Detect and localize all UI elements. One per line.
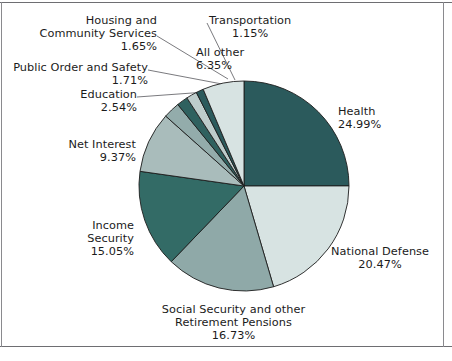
slice-label-national-defense: National Defense 20.47% — [331, 245, 429, 271]
slice-label-transportation-percent: 1.15% — [209, 27, 291, 40]
slice-label-all-other-percent: 6.35% — [196, 59, 244, 72]
slice-label-income-security-name-1: Income — [28, 219, 134, 232]
slice-label-national-defense-name: National Defense — [331, 245, 429, 258]
slice-label-social-security-percent: 16.73% — [141, 329, 326, 342]
slice-label-net-interest: Net Interest 9.37% — [18, 138, 136, 164]
slice-label-education: Education 2.54% — [10, 88, 137, 114]
slice-label-income-security-name-2: Security — [28, 232, 134, 245]
slice-label-health-percent: 24.99% — [338, 118, 381, 131]
slice-label-income-security: Income Security 15.05% — [28, 219, 134, 259]
slice-label-transportation: Transportation 1.15% — [209, 14, 291, 40]
slice-label-housing-name-1: Housing and — [14, 14, 157, 27]
slice-label-health-name: Health — [338, 105, 381, 118]
slice-label-social-security-name-1: Social Security and other — [141, 303, 326, 316]
slice-label-housing-name-2: Community Services — [14, 27, 157, 40]
slice-label-health: Health 24.99% — [338, 105, 381, 131]
slice-label-public-order: Public Order and Safety 1.71% — [6, 61, 148, 87]
slice-label-national-defense-percent: 20.47% — [331, 258, 429, 271]
slice-label-social-security: Social Security and other Retirement Pen… — [141, 303, 326, 343]
slice-label-income-security-percent: 15.05% — [28, 245, 134, 258]
pie-chart-figure: Health 24.99% National Defense 20.47% So… — [0, 0, 452, 361]
pie-slice-health[interactable] — [244, 81, 349, 186]
slice-label-housing-percent: 1.65% — [14, 40, 157, 53]
slice-label-all-other: All other 6.35% — [196, 46, 244, 72]
slice-label-education-percent: 2.54% — [10, 101, 137, 114]
slice-label-social-security-name-2: Retirement Pensions — [141, 316, 326, 329]
slice-label-education-name: Education — [10, 88, 137, 101]
slice-label-net-interest-percent: 9.37% — [18, 151, 136, 164]
slice-label-transportation-name: Transportation — [209, 14, 291, 27]
slice-label-housing: Housing and Community Services 1.65% — [14, 14, 157, 54]
slice-label-net-interest-name: Net Interest — [18, 138, 136, 151]
slice-label-public-order-percent: 1.71% — [6, 74, 148, 87]
slice-label-all-other-name: All other — [196, 46, 244, 59]
pie-slices-group — [139, 81, 349, 291]
slice-label-public-order-name: Public Order and Safety — [6, 61, 148, 74]
